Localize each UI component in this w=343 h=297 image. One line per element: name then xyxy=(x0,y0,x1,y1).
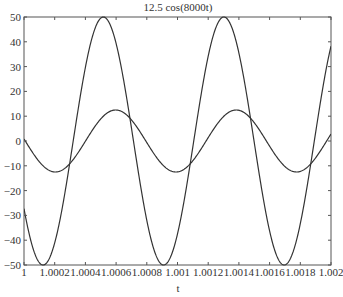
y-tick-label: 40 xyxy=(10,36,22,48)
x-tick-label: 1.001 xyxy=(165,266,190,278)
series-line-1 xyxy=(24,110,331,172)
chart-title: 12.5 cos(8000t) xyxy=(143,1,212,14)
x-tick-label: 1 xyxy=(21,266,27,278)
series-line-0 xyxy=(24,17,331,265)
y-tick-label: −20 xyxy=(4,185,22,197)
x-tick-label: 1.0014 xyxy=(224,266,255,278)
plot-area xyxy=(24,17,331,265)
x-tick-label: 1.0002 xyxy=(40,266,70,278)
y-tick-label: −30 xyxy=(4,209,22,221)
y-axis: 50403020100−10−20−30−40−50 xyxy=(4,11,331,271)
y-tick-label: 10 xyxy=(10,110,22,122)
chart: 12.5 cos(8000t) 11.00021.00041.00061.000… xyxy=(0,0,343,297)
x-tick-label: 1.0018 xyxy=(285,266,316,278)
y-tick-label: −50 xyxy=(4,259,22,271)
y-tick-label: −10 xyxy=(4,160,22,172)
x-axis: 11.00021.00041.00061.00081.0011.00121.00… xyxy=(21,17,343,278)
x-tick-label: 1.0008 xyxy=(132,266,163,278)
x-tick-label: 1.0006 xyxy=(101,266,132,278)
y-tick-label: 50 xyxy=(10,11,22,23)
x-axis-label: t xyxy=(176,282,179,294)
y-tick-label: 20 xyxy=(10,85,22,97)
x-tick-label: 1.0004 xyxy=(70,266,101,278)
x-tick-label: 1.0012 xyxy=(193,266,223,278)
y-tick-label: 30 xyxy=(10,61,22,73)
plot-frame xyxy=(24,17,331,265)
x-tick-label: 1.0016 xyxy=(254,266,285,278)
x-tick-label: 1.002 xyxy=(319,266,343,278)
y-tick-label: −40 xyxy=(4,234,22,246)
y-tick-label: 0 xyxy=(16,135,22,147)
